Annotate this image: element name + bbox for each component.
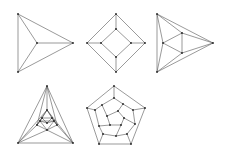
graph-tetrahedron	[17, 13, 74, 73]
edge	[157, 53, 182, 72]
edge	[47, 86, 57, 125]
vertex	[117, 110, 119, 112]
edge	[99, 126, 103, 134]
vertex	[72, 142, 74, 144]
platonic-solids-diagram	[0, 0, 228, 155]
vertex	[53, 120, 55, 122]
vertex	[130, 143, 132, 145]
edge	[118, 104, 123, 111]
edge	[107, 116, 110, 125]
vertex	[113, 85, 115, 87]
vertex	[51, 117, 53, 119]
vertex	[36, 42, 38, 44]
vertex	[101, 104, 103, 106]
edge	[114, 86, 145, 108]
edge	[87, 86, 114, 108]
vertex	[17, 71, 19, 73]
vertex	[162, 42, 164, 44]
vertex	[39, 120, 41, 122]
edge	[37, 125, 47, 130]
edge	[116, 14, 145, 43]
vertex	[115, 28, 117, 30]
edge	[157, 43, 163, 72]
vertex	[115, 135, 117, 137]
edge	[42, 110, 47, 118]
vertex	[102, 133, 104, 135]
graph-icosahedron	[17, 85, 74, 144]
vertex	[115, 13, 117, 15]
graph-dodecahedron	[86, 85, 146, 145]
vertex	[46, 122, 48, 124]
vertex	[113, 97, 115, 99]
vertex	[41, 117, 43, 119]
edge	[116, 125, 121, 136]
edge	[157, 43, 213, 72]
edge	[47, 110, 52, 118]
edge	[47, 125, 57, 130]
edge	[157, 14, 182, 33]
vertex	[17, 142, 19, 144]
edge	[87, 108, 99, 144]
edge	[107, 111, 118, 116]
edge	[99, 134, 103, 144]
edge	[101, 43, 116, 57]
edge	[127, 134, 131, 144]
vertex	[98, 143, 100, 145]
vertex	[181, 52, 183, 54]
edge	[37, 86, 47, 125]
vertex	[156, 71, 158, 73]
edge	[102, 98, 114, 105]
vertex	[181, 32, 183, 34]
vertex	[98, 125, 100, 127]
edge	[18, 43, 37, 72]
vertex	[120, 124, 122, 126]
vertex	[144, 42, 146, 44]
edge	[18, 14, 37, 43]
vertex	[106, 115, 108, 117]
edge	[18, 130, 47, 143]
edge	[163, 33, 182, 43]
vertex	[86, 107, 88, 109]
edge	[118, 111, 124, 118]
edge	[87, 43, 116, 72]
edge	[116, 43, 131, 57]
edge	[18, 43, 73, 72]
graph-octahedron	[156, 13, 214, 73]
vertex	[130, 42, 132, 44]
edge	[182, 43, 213, 53]
edge	[103, 134, 116, 136]
edge	[157, 14, 213, 43]
edge	[133, 108, 145, 110]
vertex	[126, 133, 128, 135]
vertex	[94, 109, 96, 111]
edge	[18, 125, 37, 143]
vertex	[132, 109, 134, 111]
edge	[99, 125, 110, 126]
edge	[101, 29, 116, 43]
vertex	[144, 107, 146, 109]
vertex	[122, 103, 124, 105]
vertex	[46, 109, 48, 111]
vertex	[134, 123, 136, 125]
edge	[123, 104, 133, 110]
edge	[116, 43, 145, 72]
edge	[116, 29, 131, 43]
edge	[95, 105, 102, 110]
vertex	[115, 71, 117, 73]
vertex	[17, 13, 19, 15]
edge	[18, 14, 73, 43]
edge	[95, 110, 99, 126]
vertex	[123, 117, 125, 119]
edge	[133, 110, 135, 124]
vertex	[72, 42, 74, 44]
vertex	[156, 13, 158, 15]
edge	[121, 118, 124, 125]
edge	[102, 105, 107, 116]
graph-cube	[86, 13, 146, 73]
vertex	[56, 124, 58, 126]
edge	[116, 134, 127, 136]
edge	[87, 14, 116, 43]
edge	[182, 33, 213, 43]
edge	[163, 43, 182, 53]
vertex	[46, 129, 48, 131]
